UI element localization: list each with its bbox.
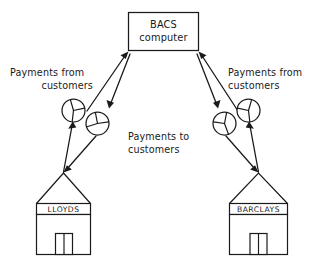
flow-lloyds-to-bacs-arrowhead	[121, 52, 129, 59]
flow-symbol-to-lloyds-building-line	[67, 136, 96, 169]
label-center-line1: Payments to	[128, 131, 189, 142]
bacs-flow-diagram: BACS computer Payments from customers Pa…	[0, 0, 321, 263]
money-symbol-lloyds-outgoing	[62, 99, 85, 122]
label-right-payments-from-customers: Payments from customers	[228, 67, 302, 91]
flow-bacs-to-barclays-line	[197, 54, 217, 104]
flow-bacs-to-barclays-arrowhead	[213, 100, 221, 109]
flow-symbol-to-barclays-building	[226, 136, 259, 173]
flow-symbol-to-barclays-building-line	[226, 136, 255, 169]
bank-building-lloyds-sign-label: LLOYDS	[47, 205, 79, 214]
bank-building-barclays-roof	[230, 173, 288, 204]
bacs-computer-node: BACS computer	[129, 13, 199, 51]
bacs-computer-label-line2: computer	[139, 32, 188, 43]
money-symbol-barclays-outgoing	[237, 99, 260, 122]
bank-building-lloyds-roof	[37, 173, 91, 204]
bacs-computer-label-line1: BACS	[150, 19, 177, 30]
bank-building-barclays-sign-label: BARCLAYS	[237, 205, 280, 214]
money-symbol-barclays-incoming	[213, 112, 236, 135]
money-symbol-lloyds-incoming	[86, 112, 109, 135]
diagram-canvas: BACS computer Payments from customers Pa…	[0, 0, 321, 263]
flow-bacs-to-lloyds	[107, 54, 131, 109]
label-left-payments-from-customers: Payments from customers	[10, 67, 93, 91]
label-left-line1: Payments from	[10, 67, 84, 78]
label-right-line2: customers	[228, 80, 280, 91]
flow-bacs-to-barclays	[197, 54, 221, 109]
bank-building-lloyds: LLOYDS	[37, 173, 91, 255]
label-center-payments-to-customers: Payments to customers	[128, 131, 189, 155]
label-center-line2: customers	[128, 144, 180, 155]
flow-lloyds-building-to-symbol	[64, 122, 77, 173]
flow-lloyds-building-to-symbol-arrowhead	[68, 122, 76, 129]
flow-symbol-to-lloyds-building	[64, 136, 97, 173]
label-right-line1: Payments from	[228, 67, 302, 78]
flow-barclays-to-bacs-arrowhead	[199, 52, 207, 59]
label-left-line2: customers	[41, 80, 93, 91]
flow-barclays-building-to-symbol	[246, 122, 259, 173]
bank-building-barclays: BARCLAYS	[230, 173, 288, 255]
flow-bacs-to-lloyds-arrowhead	[107, 100, 115, 109]
flow-barclays-building-to-symbol-arrowhead	[246, 122, 254, 129]
